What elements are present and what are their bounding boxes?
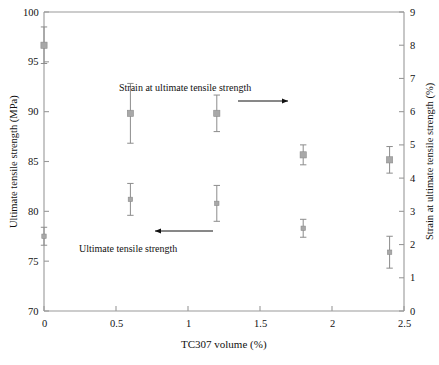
marker-square bbox=[215, 201, 219, 205]
y-left-tick-label-0: 70 bbox=[28, 306, 39, 317]
marker-square bbox=[128, 197, 132, 201]
annotation-arrow-head-0 bbox=[282, 98, 288, 103]
data-point-1-0 bbox=[41, 27, 47, 64]
marker-square bbox=[42, 234, 46, 238]
y-left-tick-label-3: 85 bbox=[28, 156, 39, 167]
y-right-tick-label-7: 7 bbox=[410, 73, 415, 84]
y-right-tick-label-9: 9 bbox=[410, 7, 415, 18]
plot-frame bbox=[44, 12, 404, 311]
data-point-0-4 bbox=[386, 236, 392, 268]
y-right-tick-label-1: 1 bbox=[410, 272, 415, 283]
data-point-0-1 bbox=[127, 183, 133, 215]
x-tick-label-3: 1.5 bbox=[254, 318, 267, 329]
data-point-1-3 bbox=[300, 145, 306, 165]
marker-square bbox=[387, 250, 391, 254]
chart-figure bbox=[0, 0, 439, 365]
strain-annotation-text: Strain at ultimate tensile strength bbox=[119, 82, 251, 93]
data-point-1-2 bbox=[214, 95, 220, 132]
marker-square bbox=[387, 157, 393, 163]
annotation-arrows bbox=[155, 98, 288, 233]
x-axis-title: TC307 volume (%) bbox=[181, 338, 267, 350]
y-axis-left-title: Ultimate tensile strength (MPa) bbox=[8, 95, 19, 228]
x-tick-label-1: 0.5 bbox=[110, 318, 123, 329]
y-left-tick-label-4: 90 bbox=[28, 106, 39, 117]
y-right-tick-label-2: 2 bbox=[410, 239, 415, 250]
marker-square bbox=[41, 42, 47, 48]
data-point-0-2 bbox=[214, 185, 220, 221]
data-point-0-0 bbox=[41, 227, 47, 245]
marker-square bbox=[301, 226, 305, 230]
marker-square bbox=[214, 110, 220, 116]
annotation-arrow-head-1 bbox=[155, 228, 161, 233]
y-right-tick-label-5: 5 bbox=[410, 139, 415, 150]
uts-annotation-text: Ultimate tensile strength bbox=[79, 243, 177, 254]
y-axis-right-title: Strain at ultimate tensile strength (%) bbox=[424, 83, 435, 240]
y-right-tick-label-6: 6 bbox=[410, 106, 415, 117]
data-point-1-4 bbox=[386, 147, 392, 174]
data-point-0-3 bbox=[300, 219, 306, 237]
y-right-tick-label-3: 3 bbox=[410, 206, 415, 217]
y-right-tick-label-4: 4 bbox=[410, 173, 415, 184]
y-left-tick-label-2: 80 bbox=[28, 206, 39, 217]
x-tick-label-0: 0 bbox=[42, 318, 47, 329]
y-left-tick-label-6: 100 bbox=[23, 7, 39, 18]
x-tick-label-5: 2.5 bbox=[398, 318, 411, 329]
y-left-tick-label-5: 95 bbox=[28, 56, 39, 67]
data-points-layer bbox=[41, 27, 393, 268]
y-left-tick-label-1: 75 bbox=[28, 256, 39, 267]
marker-square bbox=[300, 152, 306, 158]
x-tick-label-4: 2 bbox=[330, 318, 335, 329]
marker-square bbox=[127, 110, 133, 116]
y-right-tick-label-8: 8 bbox=[410, 40, 415, 51]
axis-ticks bbox=[44, 12, 404, 311]
x-tick-label-2: 1 bbox=[186, 318, 191, 329]
y-right-tick-label-0: 0 bbox=[410, 306, 415, 317]
